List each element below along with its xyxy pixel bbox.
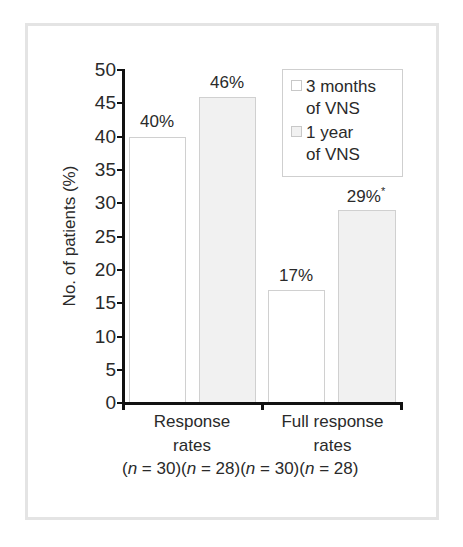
legend-item-1-year: 1 year of VNS (291, 122, 360, 166)
category-label-full-response-rates: Full response rates (265, 410, 400, 458)
y-tick-label-50: 50 (76, 60, 116, 80)
n-label: (n = 30) (122, 459, 181, 478)
category-line: rates (265, 434, 400, 458)
y-tick-label-15: 15 (76, 293, 116, 313)
bar-full-response-3-months (268, 290, 325, 403)
bar-response-3-months (129, 137, 186, 403)
y-tick-label-45: 45 (76, 93, 116, 113)
sample-size-row: (n = 30)(n = 28)(n = 30)(n = 28) (122, 459, 358, 479)
bar-value-label: 40% (122, 112, 192, 132)
y-axis (122, 69, 125, 405)
category-line: Response (132, 410, 252, 434)
y-tick-label-0: 0 (76, 393, 116, 413)
category-line: Full response (265, 410, 400, 434)
bar-response-1-year (199, 97, 256, 403)
y-tick-label-40: 40 (76, 127, 116, 147)
legend-swatch-gray (291, 126, 302, 137)
y-tick-label-25: 25 (76, 227, 116, 247)
legend: 3 months of VNS 1 year of VNS (282, 69, 403, 177)
y-tick-label-10: 10 (76, 327, 116, 347)
y-tick-label-20: 20 (76, 260, 116, 280)
bar-value-label: 46% (192, 73, 262, 93)
legend-item-3-months: 3 months of VNS (291, 76, 376, 120)
bar-value-text: 29% (347, 187, 381, 206)
n-label: (n = 30) (240, 459, 299, 478)
bar-value-label: 17% (261, 266, 331, 286)
x-tick (122, 402, 125, 410)
category-line: rates (132, 434, 252, 458)
y-tick-label-5: 5 (76, 360, 116, 380)
bar-value-label: 29%* (331, 185, 401, 207)
y-tick-label-30: 30 (76, 193, 116, 213)
legend-swatch-white (291, 80, 302, 91)
y-tick-label-35: 35 (76, 160, 116, 180)
category-label-response-rates: Response rates (132, 410, 252, 458)
x-tick (400, 402, 403, 410)
n-label: (n = 28) (181, 459, 240, 478)
x-tick (261, 402, 264, 410)
significance-marker: * (381, 185, 385, 197)
bar-full-response-1-year (338, 210, 396, 403)
n-label: (n = 28) (299, 459, 358, 478)
